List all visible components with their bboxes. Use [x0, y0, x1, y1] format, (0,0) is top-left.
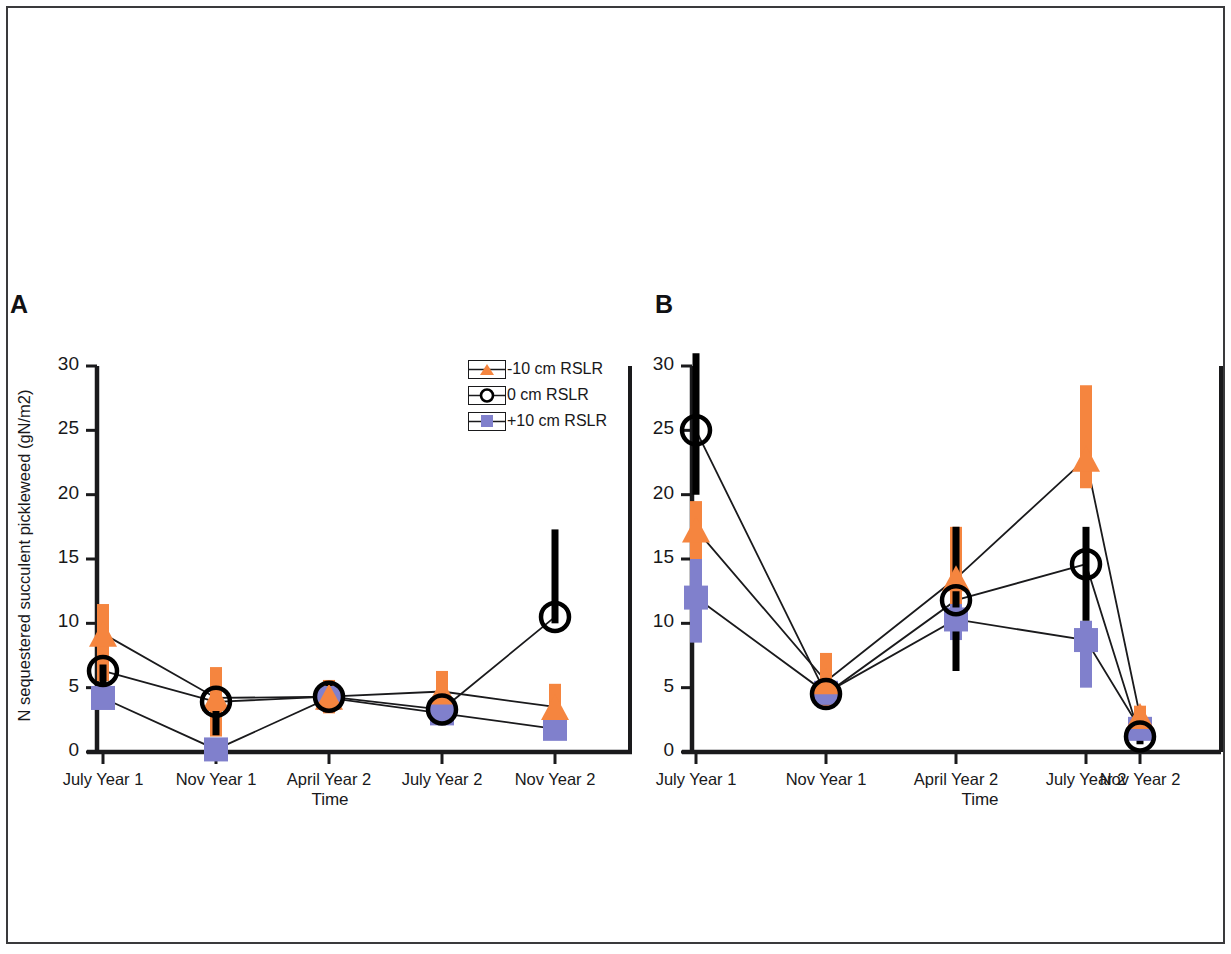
- y-tick-label: 30: [628, 353, 674, 375]
- y-tick-label: 0: [628, 739, 674, 761]
- legend-label: +10 cm RSLR: [507, 412, 607, 430]
- x-category-label: Nov Year 1: [756, 770, 896, 789]
- y-tick-label: 15: [628, 546, 674, 568]
- y-tick-label: 0: [33, 739, 79, 761]
- panel-b-plot: [640, 0, 1231, 954]
- panel-a: A N sequestered succulent pickleweed (gN…: [0, 0, 640, 954]
- series-line: [696, 598, 1140, 729]
- y-tick-label: 20: [628, 482, 674, 504]
- marker-square: [1074, 628, 1098, 652]
- x-category-label: July Year 1: [626, 770, 766, 789]
- legend: -10 cm RSLR0 cm RSLR+10 cm RSLR: [468, 356, 607, 434]
- marker-triangle: [1072, 446, 1100, 472]
- y-tick-label: 15: [33, 546, 79, 568]
- legend-label: -10 cm RSLR: [507, 360, 603, 378]
- legend-label: 0 cm RSLR: [507, 386, 589, 404]
- x-category-label: Nov Year 2: [1070, 770, 1210, 789]
- panel-b: B Time 051015202530July Year 1Nov Year 1…: [640, 0, 1231, 954]
- panel-a-x-axis-label: Time: [230, 790, 430, 810]
- panel-a-plot: [0, 0, 640, 954]
- y-tick-label: 25: [628, 417, 674, 439]
- y-tick-label: 10: [628, 610, 674, 632]
- legend-marker-square-icon: [468, 412, 506, 431]
- y-tick-label: 10: [33, 610, 79, 632]
- legend-item: +10 cm RSLR: [468, 408, 607, 434]
- y-tick-label: 25: [33, 417, 79, 439]
- y-tick-label: 5: [628, 675, 674, 697]
- x-category-label: April Year 2: [886, 770, 1026, 789]
- figure-page: A N sequestered succulent pickleweed (gN…: [0, 0, 1231, 954]
- marker-square: [91, 686, 115, 710]
- series-line: [696, 459, 1140, 716]
- y-tick-label: 30: [33, 353, 79, 375]
- marker-square: [204, 737, 228, 761]
- marker-square: [684, 586, 708, 610]
- legend-item: 0 cm RSLR: [468, 382, 607, 408]
- legend-marker-open-circle-icon: [468, 386, 506, 405]
- y-tick-label: 5: [33, 675, 79, 697]
- marker-square: [543, 717, 567, 741]
- series-line: [696, 430, 1140, 736]
- x-category-label: Nov Year 2: [485, 770, 625, 789]
- y-tick-label: 20: [33, 482, 79, 504]
- legend-marker-triangle-icon: [468, 360, 506, 379]
- legend-item: -10 cm RSLR: [468, 356, 607, 382]
- marker-triangle: [541, 694, 569, 720]
- marker-triangle: [682, 516, 710, 542]
- panel-b-x-axis-label: Time: [880, 790, 1080, 810]
